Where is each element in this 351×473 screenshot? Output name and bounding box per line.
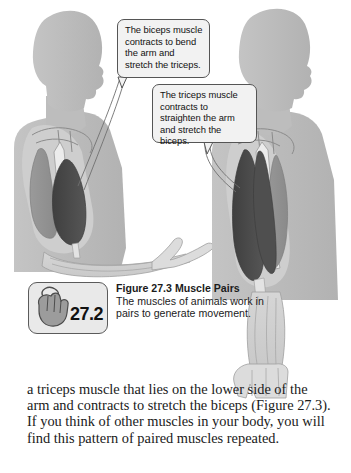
figure-caption-title: Figure 27.3 Muscle Pairs <box>116 282 240 294</box>
left-figure-head <box>33 11 104 112</box>
body-paragraph: a triceps muscle that lies on the lower … <box>27 381 332 446</box>
body-paragraph-text: a triceps muscle that lies on the lower … <box>27 381 332 446</box>
figure-caption-block: 27.2 Figure 27.3 Muscle Pairs The muscle… <box>28 282 258 344</box>
figure-caption-body: The muscles of animals work in pairs to … <box>116 295 266 320</box>
figure-caption-text: Figure 27.3 Muscle Pairs The muscles of … <box>116 282 266 320</box>
hand-mouse-icon-badge: 27.2 <box>28 282 108 334</box>
biceps-balloon-tail <box>118 77 127 88</box>
triceps-callout-text: The triceps muscle contracts to straight… <box>160 89 250 147</box>
figure-icon-number: 27.2 <box>70 304 103 325</box>
left-figure-hand <box>152 238 213 270</box>
triceps-callout-balloon: The triceps muscle contracts to straight… <box>152 84 257 143</box>
biceps-callout-text: The biceps muscle contracts to bend the … <box>125 24 203 70</box>
biceps-callout-balloon: The biceps muscle contracts to bend the … <box>117 19 210 78</box>
